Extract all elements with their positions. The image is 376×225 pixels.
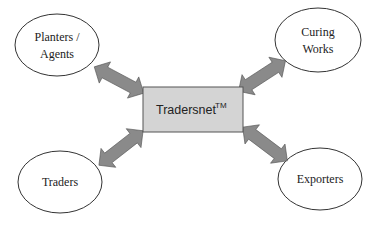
node-label-line2: Works [302,42,333,56]
hub-label: Tradersnet [156,103,217,117]
node-label-line1: Curing [301,25,334,39]
node-label: Exporters [297,172,344,186]
diagram-canvas: Planters / Agents Curing Works Traders E… [0,0,376,225]
node-label-line1: Planters / [35,30,81,44]
arrow-planters-hub [89,56,150,103]
hub-tradersnet: Tradersnet TM [143,87,243,132]
node-planters-agents: Planters / Agents [15,14,99,76]
node-curing-works: Curing Works [275,8,361,72]
node-label-line2: Agents [40,47,74,61]
node-traders: Traders [18,151,102,213]
arrow-traders-hub [92,121,151,174]
trademark-symbol: TM [215,101,227,110]
node-exporters: Exporters [278,148,362,210]
node-label: Traders [42,175,79,189]
